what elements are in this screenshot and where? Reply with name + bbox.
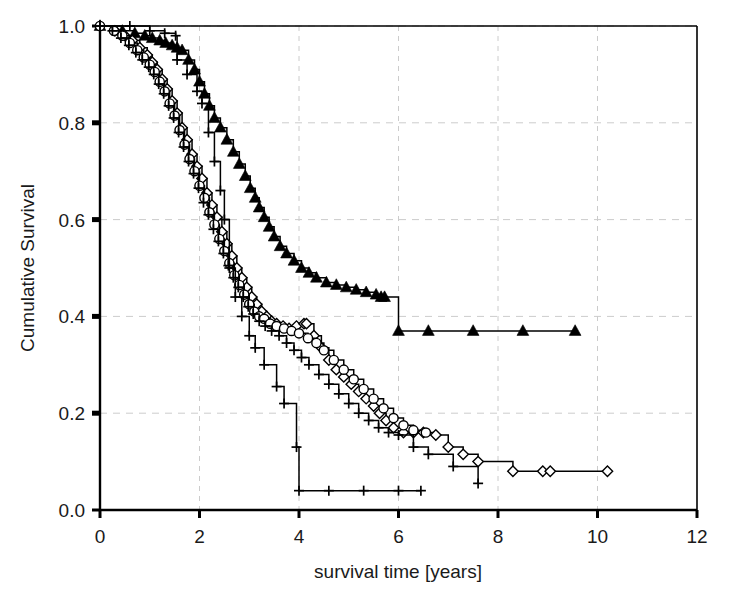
y-tick-label: 0.4 xyxy=(59,306,86,327)
marker-open-circle xyxy=(409,426,418,435)
y-tick-label: 0.2 xyxy=(59,403,85,424)
x-tick-label: 2 xyxy=(194,526,205,547)
marker-open-circle xyxy=(329,355,338,364)
x-tick-label: 6 xyxy=(393,526,404,547)
marker-open-circle xyxy=(421,428,430,437)
x-axis-title: survival time [years] xyxy=(314,561,482,582)
y-tick-label: 0.8 xyxy=(59,113,85,134)
marker-open-circle xyxy=(200,193,209,202)
x-tick-label: 10 xyxy=(587,526,608,547)
survival-chart-figure: 024681012 0.00.20.40.60.81.0 survival ti… xyxy=(0,0,730,595)
marker-open-circle xyxy=(379,404,388,413)
y-tick-label: 0.6 xyxy=(59,210,85,231)
marker-open-circle xyxy=(319,346,328,355)
marker-open-circle xyxy=(210,220,219,229)
marker-open-circle xyxy=(339,365,348,374)
x-tick-label: 0 xyxy=(95,526,106,547)
y-tick-label: 0.0 xyxy=(59,500,85,521)
kaplan-meier-plot: 024681012 0.00.20.40.60.81.0 survival ti… xyxy=(0,0,730,595)
marker-open-circle xyxy=(303,334,312,343)
y-axis-title: Cumulative Survival xyxy=(17,184,38,352)
marker-open-circle xyxy=(389,413,398,422)
marker-open-circle xyxy=(369,394,378,403)
marker-open-circle xyxy=(349,375,358,384)
marker-open-circle xyxy=(359,384,368,393)
marker-open-circle xyxy=(312,338,321,347)
marker-open-circle xyxy=(294,329,303,338)
figure-background xyxy=(0,0,730,595)
x-tick-label: 12 xyxy=(686,526,707,547)
y-tick-label: 1.0 xyxy=(59,16,85,37)
marker-open-circle xyxy=(399,421,408,430)
x-tick-label: 4 xyxy=(294,526,305,547)
x-tick-label: 8 xyxy=(493,526,504,547)
